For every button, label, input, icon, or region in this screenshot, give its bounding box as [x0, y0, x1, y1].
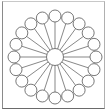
outer-node: [90, 51, 102, 63]
spoke-line: [62, 36, 83, 52]
spoke-line: [62, 62, 83, 78]
spoke-line: [34, 64, 50, 85]
outer-node: [10, 38, 22, 50]
outer-node: [16, 75, 28, 87]
outer-node: [82, 75, 94, 87]
outer-node: [62, 90, 74, 102]
outer-node: [88, 64, 100, 76]
outer-node: [49, 10, 61, 22]
spoke-line: [22, 60, 47, 68]
radial-diagram: [0, 0, 108, 112]
spoke-line: [27, 36, 48, 52]
spoke-line: [58, 24, 66, 49]
spoke-line: [27, 62, 48, 78]
spoke-line: [58, 65, 66, 90]
spoke-line: [34, 29, 50, 50]
outer-node: [88, 38, 100, 50]
outer-node: [73, 18, 85, 30]
spoke-line: [60, 64, 76, 85]
outer-node: [82, 27, 94, 39]
spoke-line: [63, 46, 88, 54]
outer-node: [62, 12, 74, 24]
outer-node: [25, 84, 37, 96]
hub-node: [47, 49, 64, 66]
outer-node: [16, 27, 28, 39]
outer-node: [8, 51, 20, 63]
spoke-line: [60, 29, 76, 50]
spoke-line: [22, 46, 47, 54]
spoke-line: [44, 65, 52, 90]
outer-node: [25, 18, 37, 30]
outer-node: [49, 92, 61, 104]
outer-node: [36, 12, 48, 24]
spoke-line: [44, 24, 52, 49]
outer-node: [10, 64, 22, 76]
spoke-line: [63, 60, 88, 68]
outer-node: [36, 90, 48, 102]
outer-node: [73, 84, 85, 96]
